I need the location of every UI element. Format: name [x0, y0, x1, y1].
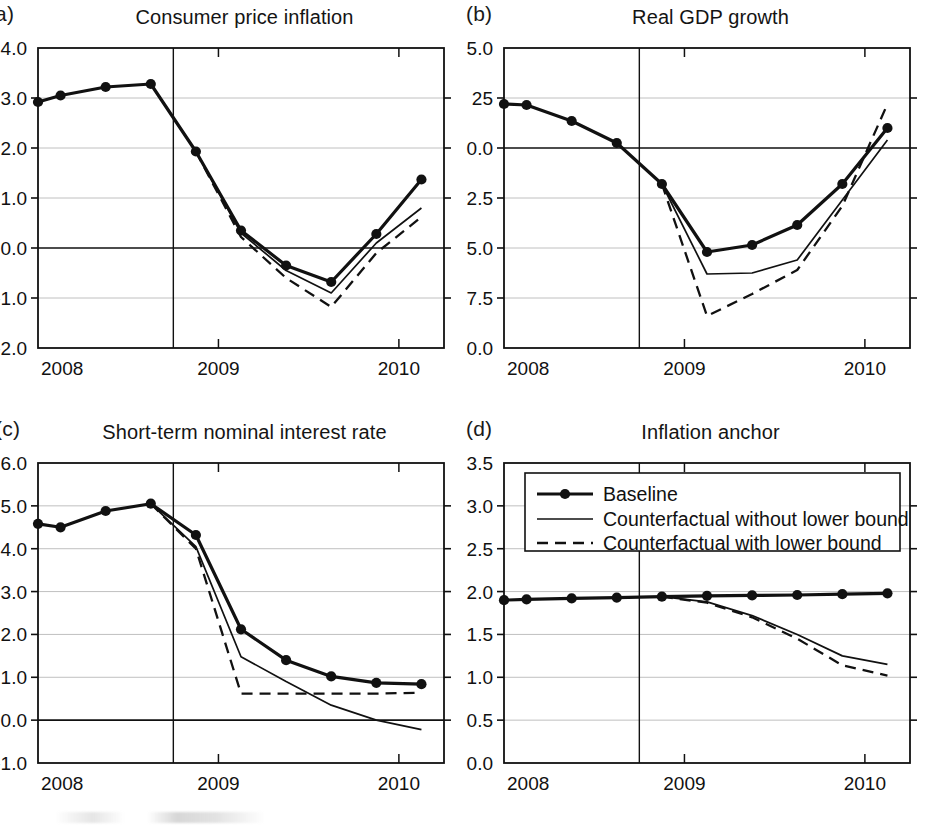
data-point-marker: [837, 589, 847, 599]
series-baseline-line: [504, 593, 887, 600]
panel-c-plot: 6.05.04.03.02.01.00.0-1.0200820092010: [0, 415, 465, 829]
x-tick-label: 2008: [507, 773, 549, 794]
y-tick-label: 1.0: [1, 188, 27, 209]
y-tick-label: 0.0: [467, 138, 493, 159]
panel-b-plot: 5.0250.0-2.5-5.0-7.5-10.0200820092010: [466, 0, 931, 414]
data-point-marker: [191, 146, 201, 156]
y-tick-label: 2.5: [467, 539, 493, 560]
four-panel-figure: a) Consumer price inflation 4.03.02.01.0…: [0, 0, 931, 829]
series-counterfactual-without-lower-bound-line: [662, 140, 888, 274]
data-point-marker: [55, 90, 65, 100]
y-tick-label: 4.0: [1, 539, 27, 560]
legend-label: Counterfactual with lower bound: [603, 532, 882, 554]
data-point-marker: [326, 277, 336, 287]
series-counterfactual-without-lower-bound-line: [151, 504, 422, 730]
data-point-marker: [747, 590, 757, 600]
y-tick-label: 0.0: [1, 710, 27, 731]
data-point-marker: [837, 179, 847, 189]
data-point-marker: [33, 519, 43, 529]
data-point-marker: [326, 671, 336, 681]
y-tick-label: 5.0: [1, 496, 27, 517]
y-tick-label: -7.5: [466, 288, 493, 309]
x-tick-label: 2010: [844, 773, 886, 794]
x-tick-label: 2009: [663, 773, 705, 794]
y-tick-label: 3.0: [1, 88, 27, 109]
data-point-marker: [101, 82, 111, 92]
y-tick-label: -10.0: [466, 338, 493, 359]
data-point-marker: [521, 594, 531, 604]
data-point-marker: [281, 260, 291, 270]
y-tick-label: 2.0: [467, 582, 493, 603]
data-point-marker: [792, 220, 802, 230]
data-point-marker: [499, 99, 509, 109]
data-point-marker: [612, 592, 622, 602]
data-point-marker: [101, 506, 111, 516]
data-point-marker: [416, 174, 426, 184]
y-tick-label: -2.5: [466, 188, 493, 209]
y-tick-label: -1.0: [0, 753, 27, 774]
panel-c: (c) Short-term nominal interest rate 6.0…: [0, 415, 465, 829]
data-point-marker: [702, 591, 712, 601]
y-tick-label: 0.0: [467, 753, 493, 774]
legend-label: Baseline: [603, 483, 678, 505]
y-tick-label: 3.5: [467, 453, 493, 474]
data-point-marker: [236, 624, 246, 634]
legend-marker-baseline: [560, 489, 570, 499]
x-tick-label: 2009: [197, 358, 239, 379]
y-tick-label: 25: [472, 88, 493, 109]
series-baseline-line: [38, 504, 421, 684]
legend: BaselineCounterfactual without lower bou…: [525, 473, 909, 554]
series-counterfactual-with-lower-bound-line: [196, 152, 422, 308]
x-tick-label: 2008: [41, 773, 83, 794]
data-point-marker: [416, 679, 426, 689]
data-point-marker: [521, 100, 531, 110]
y-tick-label: -5.0: [466, 238, 493, 259]
data-point-marker: [191, 530, 201, 540]
y-tick-label: 6.0: [1, 453, 27, 474]
data-point-marker: [612, 138, 622, 148]
series-counterfactual-with-lower-bound-line: [662, 597, 888, 676]
data-point-marker: [371, 229, 381, 239]
x-tick-label: 2008: [507, 358, 549, 379]
y-tick-label: 1.5: [467, 624, 493, 645]
y-tick-label: 5.0: [467, 38, 493, 59]
y-tick-label: -2.0: [0, 338, 27, 359]
x-tick-label: 2010: [378, 358, 420, 379]
data-point-marker: [499, 595, 509, 605]
legend-label: Counterfactual without lower bound: [603, 508, 909, 530]
x-tick-label: 2010: [378, 773, 420, 794]
panel-a-plot: 4.03.02.01.00.0-1.0-2.0200820092010: [0, 0, 465, 414]
data-point-marker: [747, 240, 757, 250]
x-tick-label: 2008: [41, 358, 83, 379]
y-tick-label: 2.0: [1, 624, 27, 645]
y-tick-label: 3.0: [467, 496, 493, 517]
panel-a: a) Consumer price inflation 4.03.02.01.0…: [0, 0, 465, 414]
data-point-marker: [792, 590, 802, 600]
series-baseline-line: [38, 84, 421, 282]
panel-d: (d) Inflation anchor 3.53.02.52.01.51.00…: [466, 415, 931, 829]
data-point-marker: [882, 123, 892, 133]
data-point-marker: [702, 247, 712, 257]
data-point-marker: [146, 79, 156, 89]
y-tick-label: 1.0: [1, 667, 27, 688]
y-tick-label: 2.0: [1, 138, 27, 159]
data-point-marker: [371, 678, 381, 688]
data-point-marker: [281, 655, 291, 665]
x-tick-label: 2009: [197, 773, 239, 794]
series-baseline-line: [504, 104, 887, 252]
data-point-marker: [55, 522, 65, 532]
y-tick-label: 4.0: [1, 38, 27, 59]
y-tick-label: -1.0: [0, 288, 27, 309]
y-tick-label: 0.0: [1, 238, 27, 259]
panel-d-plot: 3.53.02.52.01.51.00.50.0200820092010Base…: [466, 415, 931, 829]
y-tick-label: 1.0: [467, 667, 493, 688]
x-tick-label: 2010: [844, 358, 886, 379]
series-counterfactual-without-lower-bound-line: [662, 597, 888, 665]
data-point-marker: [33, 97, 43, 107]
data-point-marker: [882, 588, 892, 598]
data-point-marker: [567, 593, 577, 603]
panel-b: (b) Real GDP growth 5.0250.0-2.5-5.0-7.5…: [466, 0, 931, 414]
data-point-marker: [567, 116, 577, 126]
y-tick-label: 0.5: [467, 710, 493, 731]
y-tick-label: 3.0: [1, 582, 27, 603]
